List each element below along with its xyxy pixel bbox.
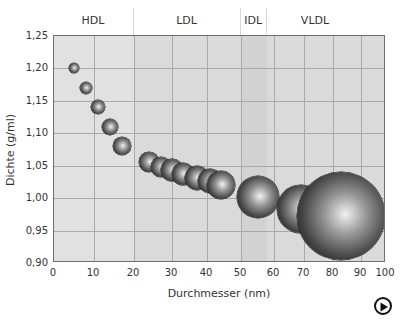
band-divider xyxy=(240,8,241,36)
grid-line xyxy=(54,166,384,167)
x-tick-label: 20 xyxy=(127,267,140,278)
y-tick-label: 1,00 xyxy=(0,192,48,203)
y-tick-label: 0,95 xyxy=(0,224,48,235)
y-tick-label: 1,15 xyxy=(0,94,48,105)
x-tick-label: 90 xyxy=(354,267,367,278)
grid-line xyxy=(54,133,384,134)
x-tick-label: 70 xyxy=(297,267,310,278)
band-label-idl: IDL xyxy=(244,14,262,27)
grid-line xyxy=(241,36,242,261)
x-tick-label: 80 xyxy=(326,267,339,278)
grid-line xyxy=(274,36,275,261)
band-label-hdl: HDL xyxy=(82,14,105,27)
data-bubble xyxy=(237,176,279,218)
data-bubble xyxy=(207,171,235,199)
grid-line xyxy=(134,36,135,261)
data-bubble xyxy=(91,100,105,114)
data-bubble xyxy=(297,172,385,260)
grid-line xyxy=(94,36,95,261)
band-divider xyxy=(133,8,134,36)
y-tick-label: 1,25 xyxy=(0,30,48,41)
band-region xyxy=(241,36,267,261)
x-tick-label: 0 xyxy=(50,267,56,278)
data-bubble xyxy=(69,63,79,73)
play-icon xyxy=(379,302,389,312)
y-tick-label: 0,90 xyxy=(0,257,48,268)
y-axis-label: Dichte (g/ml) xyxy=(4,114,17,186)
band-label-vldl: VLDL xyxy=(301,14,329,27)
grid-line xyxy=(54,101,384,102)
data-bubble xyxy=(80,82,92,94)
x-axis-label: Durchmesser (nm) xyxy=(168,287,271,300)
data-bubble xyxy=(113,137,131,155)
plot-area xyxy=(53,35,385,262)
x-tick-label: 30 xyxy=(165,267,178,278)
grid-line xyxy=(207,36,208,261)
x-tick-label: 40 xyxy=(200,267,213,278)
data-bubble xyxy=(102,119,118,135)
x-tick-label: 50 xyxy=(234,267,247,278)
y-tick-label: 1,20 xyxy=(0,62,48,73)
grid-line xyxy=(172,36,173,261)
x-tick-label: 60 xyxy=(267,267,280,278)
band-region xyxy=(134,36,241,261)
x-tick-label: 100 xyxy=(375,267,394,278)
x-tick-label: 10 xyxy=(87,267,100,278)
band-divider xyxy=(266,8,267,36)
play-button[interactable] xyxy=(374,297,392,315)
band-label-ldl: LDL xyxy=(176,14,197,27)
grid-line xyxy=(54,68,384,69)
